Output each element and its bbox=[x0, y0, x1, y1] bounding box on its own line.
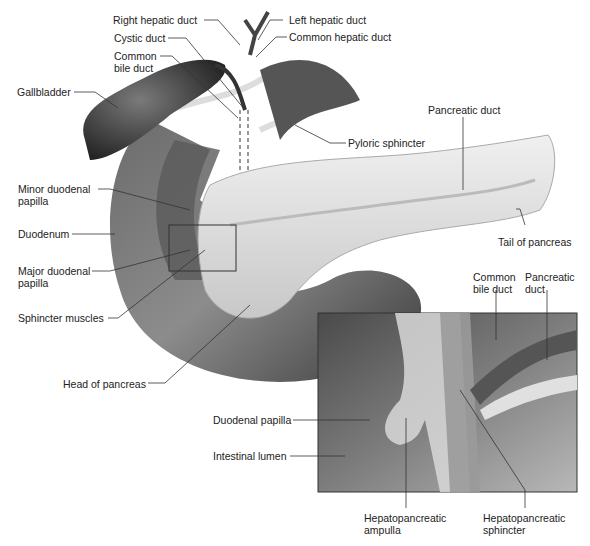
inset-label-common-bile-duct: Common bile duct bbox=[473, 271, 516, 295]
label-pyloric-sphincter: Pyloric sphincter bbox=[348, 137, 425, 149]
label-minor-duodenal-papilla: Minor duodenal papilla bbox=[18, 183, 90, 207]
label-pancreatic-duct: Pancreatic duct bbox=[428, 104, 500, 116]
inset-label-hepatopancreatic-sphincter: Hepatopancreatic sphincter bbox=[483, 512, 565, 536]
label-right-hepatic-duct: Right hepatic duct bbox=[113, 14, 197, 26]
label-left-hepatic-duct: Left hepatic duct bbox=[289, 14, 366, 26]
label-cystic-duct: Cystic duct bbox=[114, 32, 165, 44]
label-major-duodenal-papilla: Major duodenal papilla bbox=[18, 265, 90, 289]
label-duodenum: Duodenum bbox=[18, 228, 69, 240]
inset-label-intestinal-lumen: Intestinal lumen bbox=[213, 450, 287, 462]
label-common-bile-duct: Common bile duct bbox=[114, 50, 157, 74]
inset-label-hepatopancreatic-ampulla: Hepatopancreatic ampulla bbox=[364, 512, 446, 536]
inset-label-pancreatic-duct: Pancreatic duct bbox=[525, 271, 575, 295]
label-common-hepatic-duct: Common hepatic duct bbox=[289, 31, 391, 43]
label-sphincter-muscles: Sphincter muscles bbox=[18, 312, 104, 324]
inset-label-duodenal-papilla: Duodenal papilla bbox=[213, 414, 291, 426]
label-head-of-pancreas: Head of pancreas bbox=[63, 378, 146, 390]
label-gallbladder: Gallbladder bbox=[17, 86, 71, 98]
anatomy-diagram: Right hepatic duct Left hepatic duct Cys… bbox=[0, 0, 590, 546]
label-tail-of-pancreas: Tail of pancreas bbox=[498, 236, 572, 248]
